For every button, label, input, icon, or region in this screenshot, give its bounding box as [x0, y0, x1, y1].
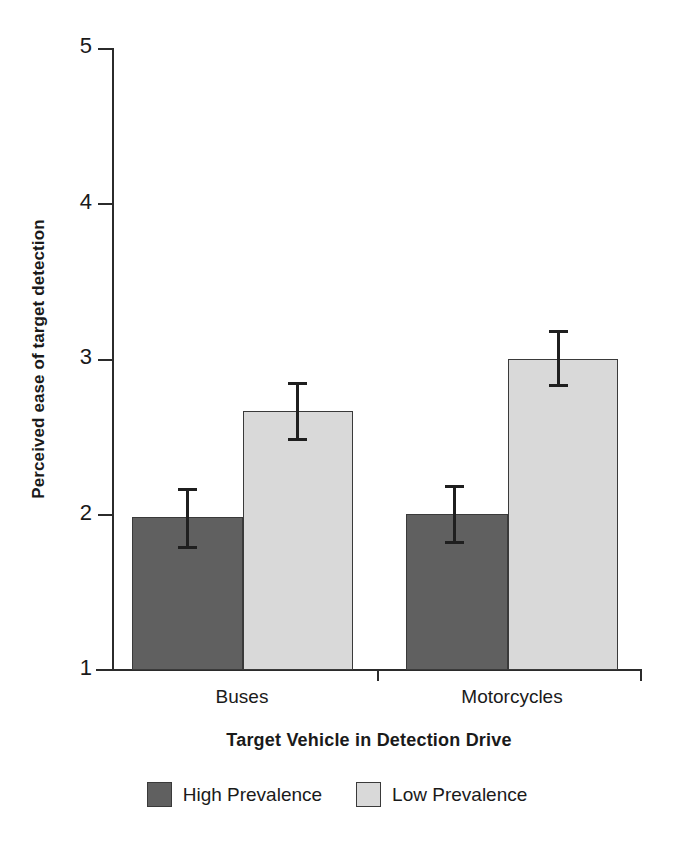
bar-chart-figure: Perceived ease of target detection 5 4 3…	[0, 0, 674, 849]
legend-label-low-prevalence: Low Prevalence	[392, 784, 527, 806]
legend: High Prevalence Low Prevalence	[0, 782, 674, 807]
errorbar-cap-bottom-buses-high	[178, 546, 197, 549]
bar-motorcycles-high-prevalence	[406, 514, 508, 670]
legend-item-high-prevalence: High Prevalence	[147, 782, 322, 807]
errorbar-stem-motorcycles-low	[557, 330, 560, 387]
errorbar-cap-bottom-motorcycles-low	[549, 384, 568, 387]
errorbar-cap-bottom-buses-low	[288, 438, 307, 441]
errorbar-stem-motorcycles-high	[453, 485, 456, 544]
errorbar-cap-bottom-motorcycles-high	[445, 541, 464, 544]
errorbar-stem-buses-high	[186, 488, 189, 549]
legend-swatch-low-prevalence	[356, 782, 381, 807]
errorbar-cap-top-motorcycles-high	[445, 485, 464, 488]
bar-motorcycles-low-prevalence	[508, 359, 618, 670]
errorbar-cap-top-buses-low	[288, 382, 307, 385]
bar-buses-low-prevalence	[243, 411, 353, 670]
legend-swatch-high-prevalence	[147, 782, 172, 807]
plot-area	[0, 0, 674, 849]
legend-item-low-prevalence: Low Prevalence	[356, 782, 527, 807]
errorbar-stem-buses-low	[296, 382, 299, 441]
errorbar-cap-top-motorcycles-low	[549, 330, 568, 333]
legend-label-high-prevalence: High Prevalence	[183, 784, 322, 806]
errorbar-cap-top-buses-high	[178, 488, 197, 491]
x-axis-title: Target Vehicle in Detection Drive	[96, 730, 642, 751]
